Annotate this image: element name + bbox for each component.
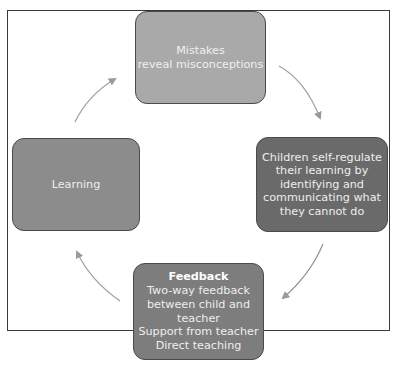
node-feedback-line-5: Direct teaching bbox=[156, 339, 242, 353]
node-mistakes-line-2: reveal misconceptions bbox=[138, 58, 264, 72]
node-self-regulate-line-1: Children self-regulate bbox=[262, 151, 382, 165]
node-learning-label: Learning bbox=[52, 178, 101, 192]
node-self-regulate-line-3: identifying and bbox=[280, 178, 364, 192]
node-self-regulate-line-4: communicating what bbox=[263, 191, 381, 205]
node-feedback-line-1: Two-way feedback bbox=[147, 284, 250, 298]
node-mistakes: Mistakes reveal misconceptions bbox=[135, 11, 266, 104]
node-self-regulate: Children self-regulate their learning by… bbox=[256, 137, 388, 232]
node-feedback-title: Feedback bbox=[168, 270, 228, 284]
node-mistakes-line-1: Mistakes bbox=[176, 44, 225, 58]
node-feedback-line-2: between child and bbox=[147, 298, 250, 312]
node-learning: Learning bbox=[12, 138, 140, 231]
node-feedback-line-4: Support from teacher bbox=[138, 325, 258, 339]
node-self-regulate-line-2: their learning by bbox=[276, 164, 369, 178]
node-self-regulate-line-5: they cannot do bbox=[280, 205, 364, 219]
node-feedback: Feedback Two-way feedback between child … bbox=[133, 263, 264, 360]
node-feedback-line-3: teacher bbox=[177, 312, 220, 326]
